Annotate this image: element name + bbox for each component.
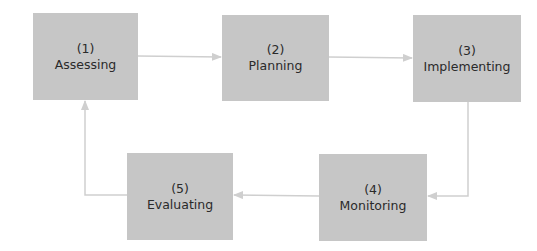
node-number: (3) xyxy=(458,43,476,59)
node-label: Monitoring xyxy=(340,198,407,214)
node-planning: (2) Planning xyxy=(222,15,329,101)
arrow-assessing-to-planning xyxy=(138,56,221,57)
node-evaluating: (5) Evaluating xyxy=(127,153,233,240)
node-label: Planning xyxy=(249,58,303,74)
node-implementing: (3) Implementing xyxy=(413,15,521,102)
node-number: (2) xyxy=(267,42,285,58)
arrow-monitoring-to-evaluating xyxy=(234,195,319,196)
arrow-evaluating-to-assessing xyxy=(85,101,127,195)
arrow-implementing-to-monitoring xyxy=(428,102,468,196)
node-number: (5) xyxy=(171,181,189,197)
node-label: Implementing xyxy=(424,59,511,75)
node-number: (1) xyxy=(77,41,95,57)
node-label: Evaluating xyxy=(147,197,213,213)
node-label: Assessing xyxy=(55,57,117,73)
arrow-planning-to-implementing xyxy=(329,57,412,58)
node-monitoring: (4) Monitoring xyxy=(319,154,427,241)
node-assessing: (1) Assessing xyxy=(33,13,138,100)
node-number: (4) xyxy=(364,182,382,198)
process-cycle-diagram: (1) Assessing (2) Planning (3) Implement… xyxy=(0,0,537,251)
